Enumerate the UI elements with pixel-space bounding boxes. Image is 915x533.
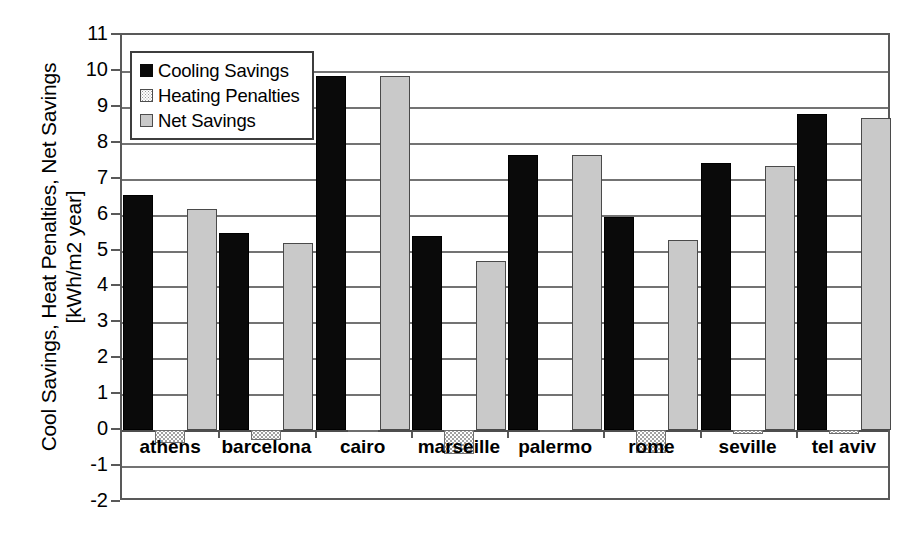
y-axis-tick-label: 5 xyxy=(72,237,108,260)
y-axis-tick-label: 11 xyxy=(72,22,108,45)
y-axis-title-line-1: Cool Savings, Heat Penalties, Net Saving… xyxy=(37,63,62,452)
x-axis-label-marseille: marseille xyxy=(411,436,507,458)
bar-palermo-heating-penalties xyxy=(540,430,570,432)
bar-palermo-net-savings xyxy=(572,155,602,430)
y-axis-tick-mark xyxy=(111,177,120,179)
y-axis-tick-mark xyxy=(111,284,120,286)
x-axis-label-barcelona: barcelona xyxy=(218,436,314,458)
y-axis-tick-label: 4 xyxy=(72,273,108,296)
x-axis-label-cairo: cairo xyxy=(315,436,411,458)
y-axis-tick-label: 6 xyxy=(72,201,108,224)
y-axis-tick-mark xyxy=(111,500,120,502)
bar-tel-aviv-net-savings xyxy=(861,118,891,431)
legend-item-net-savings: Net Savings xyxy=(140,108,300,133)
legend-label-cooling-savings: Cooling Savings xyxy=(158,60,289,82)
x-axis-label-seville: seville xyxy=(700,436,796,458)
y-axis-tick-mark xyxy=(111,464,120,466)
y-axis-tick-mark xyxy=(111,320,120,322)
y-axis-tick-label: 10 xyxy=(72,57,108,80)
y-axis-tick-label: 2 xyxy=(72,345,108,368)
x-axis-label-palermo: palermo xyxy=(507,436,603,458)
y-axis-tick-mark xyxy=(111,33,120,35)
bar-tel-aviv-heating-penalties xyxy=(829,430,859,434)
y-axis-tick-label: -1 xyxy=(72,453,108,476)
gridline xyxy=(122,143,888,145)
legend: Cooling Savings Heating Penalties Net Sa… xyxy=(130,51,314,140)
bar-cairo-cooling-savings xyxy=(316,76,346,430)
y-axis-tick-mark xyxy=(111,249,120,251)
legend-swatch-cooling-savings xyxy=(140,64,153,77)
zero-axis-line xyxy=(122,430,888,432)
bar-marseille-cooling-savings xyxy=(412,236,442,430)
legend-item-cooling-savings: Cooling Savings xyxy=(140,58,300,83)
bar-cairo-heating-penalties xyxy=(348,430,378,432)
gridline xyxy=(122,466,888,468)
y-axis-tick-mark xyxy=(111,428,120,430)
bar-barcelona-cooling-savings xyxy=(219,233,249,431)
plot-area: athensbarcelonacairomarseillepalermorome… xyxy=(120,33,890,500)
x-axis-label-tel-aviv: tel aviv xyxy=(796,436,892,458)
legend-label-heating-penalties: Heating Penalties xyxy=(158,85,300,107)
bar-rome-net-savings xyxy=(668,240,698,430)
y-axis-tick-label: 9 xyxy=(72,93,108,116)
bar-rome-cooling-savings xyxy=(604,217,634,430)
y-axis-tick-label: 8 xyxy=(72,129,108,152)
x-axis-label-athens: athens xyxy=(122,436,218,458)
bar-seville-net-savings xyxy=(765,166,795,430)
y-axis-tick-mark xyxy=(111,356,120,358)
y-axis-tick-mark xyxy=(111,141,120,143)
y-axis-tick-label: 3 xyxy=(72,309,108,332)
y-axis-tick-label: 0 xyxy=(72,417,108,440)
bar-athens-cooling-savings xyxy=(123,195,153,430)
legend-label-net-savings: Net Savings xyxy=(158,110,256,132)
y-axis-tick-mark xyxy=(111,69,120,71)
bar-tel-aviv-cooling-savings xyxy=(797,114,827,430)
y-axis-tick-mark xyxy=(111,392,120,394)
bar-seville-cooling-savings xyxy=(701,163,731,431)
legend-swatch-heating-penalties xyxy=(140,89,153,102)
bar-athens-net-savings xyxy=(187,209,217,430)
bar-chart: Cool Savings, Heat Penalties, Net Saving… xyxy=(0,0,915,533)
bar-barcelona-net-savings xyxy=(283,243,313,431)
y-axis-tick-label: 7 xyxy=(72,165,108,188)
bar-palermo-cooling-savings xyxy=(508,155,538,430)
y-axis-tick-label: 1 xyxy=(72,381,108,404)
bar-seville-heating-penalties xyxy=(733,430,763,434)
bar-marseille-net-savings xyxy=(476,261,506,431)
y-axis-tick-mark xyxy=(111,105,120,107)
x-axis-label-rome: rome xyxy=(603,436,699,458)
bar-cairo-net-savings xyxy=(380,76,410,430)
y-axis-tick-mark xyxy=(111,213,120,215)
y-axis-tick-label: -2 xyxy=(72,489,108,512)
legend-swatch-net-savings xyxy=(140,114,153,127)
legend-item-heating-penalties: Heating Penalties xyxy=(140,83,300,108)
